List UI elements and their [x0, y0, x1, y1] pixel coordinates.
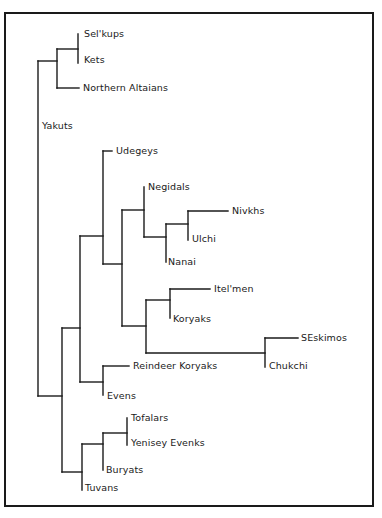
- taxon-label-ulchi: Ulchi: [192, 233, 216, 245]
- taxon-label-yenisey-evenks: Yenisey Evenks: [131, 437, 205, 449]
- taxon-label-negidals: Negidals: [148, 181, 190, 193]
- taxon-label-selkups: Sel'kups: [84, 28, 124, 40]
- taxon-label-nivkhs: Nivkhs: [232, 205, 264, 217]
- taxon-label-chukchi: Chukchi: [269, 360, 308, 372]
- taxon-label-buryats: Buryats: [106, 464, 143, 476]
- taxon-label-kets: Kets: [84, 54, 105, 66]
- taxon-label-koryaks: Koryaks: [173, 313, 211, 325]
- taxon-label-tuvans: Tuvans: [85, 482, 118, 494]
- taxon-label-udegeys: Udegeys: [116, 145, 158, 157]
- taxon-label-tofalars: Tofalars: [131, 412, 168, 424]
- taxon-label-evens: Evens: [107, 390, 136, 402]
- taxon-label-nanai: Nanai: [168, 256, 196, 268]
- taxon-label-yakuts: Yakuts: [42, 120, 73, 132]
- taxon-label-reindeer-koryaks: Reindeer Koryaks: [133, 360, 217, 372]
- taxon-label-seskimos: SEskimos: [301, 332, 347, 344]
- taxon-label-northern-altaians: Northern Altaians: [83, 82, 168, 94]
- taxon-label-itelmen: Itel'men: [214, 283, 254, 295]
